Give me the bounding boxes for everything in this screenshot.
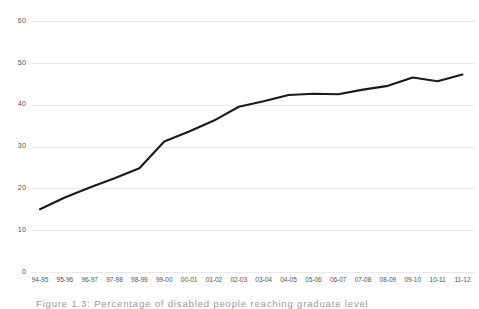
figure-caption: Figure 1.3: Percentage of disabled peopl…: [36, 298, 466, 309]
data-series-line: [40, 75, 462, 210]
line-chart: 0102030405060 94-9595-9696-9797-9898-999…: [0, 0, 479, 292]
figure-container: 0102030405060 94-9595-9696-9797-9898-999…: [0, 0, 479, 309]
plot-svg: [0, 0, 479, 292]
